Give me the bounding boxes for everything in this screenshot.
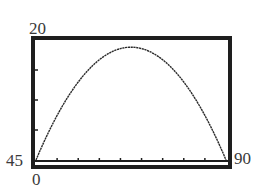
xmin-label: 0 <box>32 171 41 188</box>
plot-frame <box>33 38 230 167</box>
ymax-label: 20 <box>29 20 46 37</box>
y-axis-ticks <box>35 70 38 130</box>
left-bottom-label: 45 <box>6 152 23 169</box>
xmax-label: 90 <box>234 150 251 167</box>
parabola-curve <box>36 47 226 160</box>
